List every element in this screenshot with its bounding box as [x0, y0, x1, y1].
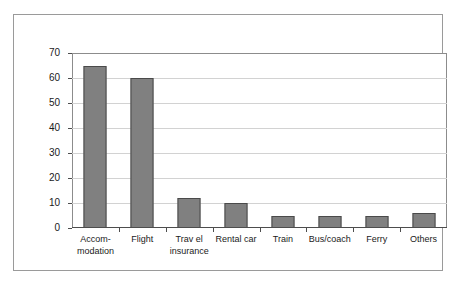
y-axis-tick-label: 60 — [49, 73, 60, 83]
y-axis-tick-label: 40 — [49, 123, 60, 133]
y-axis-tick-mark — [68, 228, 72, 229]
x-axis-tick-mark — [306, 228, 307, 232]
bar — [225, 203, 248, 228]
x-axis-tick-mark — [353, 228, 354, 232]
bar-series — [72, 53, 447, 228]
bar-slot — [353, 53, 400, 228]
x-axis-category-label: Others — [396, 233, 451, 245]
y-axis-tick-label: 50 — [49, 98, 60, 108]
bar-slot — [213, 53, 260, 228]
bar-slot — [166, 53, 213, 228]
x-axis-line — [72, 227, 447, 228]
y-axis-tick-labels: 706050403020100 — [40, 53, 66, 228]
bar-slot — [260, 53, 307, 228]
y-axis-tick-label: 30 — [49, 148, 60, 158]
x-axis-category-labels: Accom- modationFlightTrav el insuranceRe… — [72, 233, 447, 273]
x-axis-tick-mark — [166, 228, 167, 232]
y-axis-tick-label: 20 — [49, 173, 60, 183]
bar — [178, 198, 201, 228]
x-axis-tick-mark — [400, 228, 401, 232]
x-axis-tick-mark — [213, 228, 214, 232]
bar — [84, 66, 107, 229]
bar-slot — [400, 53, 447, 228]
bar-slot — [72, 53, 119, 228]
bar-slot — [119, 53, 166, 228]
y-axis-tick-label: 0 — [54, 223, 60, 233]
bar — [412, 213, 435, 228]
chart-figure-frame: 706050403020100 Accom- modationFlightTra… — [13, 14, 443, 271]
bar — [131, 78, 154, 228]
x-axis-tick-mark — [119, 228, 120, 232]
y-axis-tick-label: 10 — [49, 198, 60, 208]
x-axis-tick-mark — [260, 228, 261, 232]
y-axis-tick-label: 70 — [49, 48, 60, 58]
bar-slot — [306, 53, 353, 228]
plot-area — [72, 53, 447, 228]
